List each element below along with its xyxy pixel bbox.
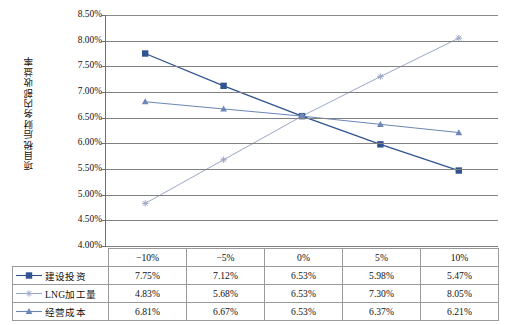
table-column-header: 5% — [343, 249, 421, 267]
y-axis-title: 项目税后财务内部收益率 — [24, 56, 40, 170]
data-table-wrap: −10%−5%0%5%10%建设投资7.75%7.12%6.53%5.98%5.… — [12, 248, 498, 321]
gridline — [106, 15, 498, 16]
y-tick-mark — [101, 169, 106, 170]
sensitivity-line-chart: 项目税后财务内部收益率 8.50%8.00%7.50%7.00%6.50%6.0… — [0, 0, 508, 248]
y-tick-label: 8.00% — [54, 36, 102, 45]
y-axis-tick-labels: 8.50%8.00%7.50%7.00%6.50%6.00%5.50%5.00%… — [50, 0, 102, 248]
y-tick-label: 7.00% — [54, 87, 102, 96]
y-tick-mark — [101, 195, 106, 196]
gridline — [106, 246, 498, 247]
data-point-marker — [220, 157, 226, 163]
gridline — [106, 92, 498, 93]
y-tick-label: 7.50% — [54, 62, 102, 71]
table-column-header: 0% — [265, 249, 343, 267]
data-point-marker — [220, 83, 226, 89]
plot-area — [105, 15, 497, 246]
series-lines-layer — [106, 15, 498, 246]
data-table: −10%−5%0%5%10%建设投资7.75%7.12%6.53%5.98%5.… — [12, 248, 499, 321]
y-tick-mark — [101, 118, 106, 119]
legend-marker-triangle-icon — [16, 307, 42, 316]
y-tick-label: 5.00% — [54, 190, 102, 199]
gridline — [106, 118, 498, 119]
gridline — [106, 143, 498, 144]
data-point-marker — [142, 200, 148, 206]
gridline — [106, 66, 498, 67]
table-cell: 4.83% — [109, 285, 187, 303]
series-line — [145, 54, 459, 171]
table-cell: 6.53% — [265, 285, 343, 303]
y-tick-mark — [101, 143, 106, 144]
table-cell: 6.81% — [109, 303, 187, 321]
table-column-header: −10% — [109, 249, 187, 267]
table-cell: 5.98% — [343, 267, 421, 285]
y-tick-label: 4.50% — [54, 216, 102, 225]
legend-row-square[interactable]: 建设投资 — [13, 267, 109, 285]
table-corner-cell — [13, 249, 109, 267]
table-cell: 5.68% — [187, 285, 265, 303]
y-tick-label: 5.50% — [54, 164, 102, 173]
table-cell: 6.53% — [265, 267, 343, 285]
legend-row-triangle[interactable]: 经营成本 — [13, 303, 109, 321]
chart-page: 项目税后财务内部收益率 8.50%8.00%7.50%7.00%6.50%6.0… — [0, 0, 508, 325]
table-row: 建设投资7.75%7.12%6.53%5.98%5.47% — [13, 267, 499, 285]
table-cell: 7.75% — [109, 267, 187, 285]
gridline — [106, 41, 498, 42]
y-tick-mark — [101, 41, 106, 42]
table-column-header: 10% — [421, 249, 499, 267]
legend-marker-star-icon — [16, 289, 42, 298]
table-header-row: −10%−5%0%5%10% — [13, 249, 499, 267]
y-tick-mark — [101, 92, 106, 93]
table-cell: 5.47% — [421, 267, 499, 285]
legend-marker-square-icon — [16, 271, 42, 280]
table-cell: 6.67% — [187, 303, 265, 321]
legend-label: 经营成本 — [45, 305, 86, 319]
table-cell: 7.12% — [187, 267, 265, 285]
table-cell: 7.30% — [343, 285, 421, 303]
table-column-header: −5% — [187, 249, 265, 267]
gridline — [106, 169, 498, 170]
legend-row-star[interactable]: LNG加工量 — [13, 285, 109, 303]
data-point-marker — [377, 141, 383, 147]
table-cell: 6.21% — [421, 303, 499, 321]
data-point-marker — [142, 98, 149, 104]
legend-label: LNG加工量 — [45, 287, 96, 301]
table-cell: 8.05% — [421, 285, 499, 303]
table-row: 经营成本6.81%6.67%6.53%6.37%6.21% — [13, 303, 499, 321]
gridline — [106, 195, 498, 196]
y-tick-mark — [101, 220, 106, 221]
data-point-marker — [142, 50, 148, 56]
table-row: LNG加工量4.83%5.68%6.53%7.30%8.05% — [13, 285, 499, 303]
y-tick-label: 8.50% — [54, 10, 102, 19]
gridline — [106, 220, 498, 221]
y-tick-mark — [101, 246, 106, 247]
y-tick-mark — [101, 66, 106, 67]
series-line — [145, 38, 459, 203]
table-cell: 6.37% — [343, 303, 421, 321]
data-point-marker — [377, 73, 383, 79]
y-tick-mark — [101, 15, 106, 16]
y-tick-label: 6.00% — [54, 139, 102, 148]
table-cell: 6.53% — [265, 303, 343, 321]
y-tick-label: 6.50% — [54, 113, 102, 122]
legend-label: 建设投资 — [45, 269, 86, 283]
